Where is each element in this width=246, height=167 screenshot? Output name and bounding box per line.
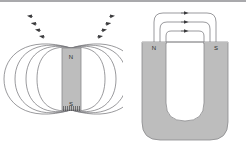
bar-magnet-panel: N S	[0, 0, 123, 167]
horseshoe-arrowheads-group	[181, 13, 186, 31]
field-lines-left-group	[4, 44, 71, 114]
field-arrowheads-group	[30, 16, 113, 37]
arrowhead-right-3	[105, 24, 109, 25]
horseshoe-magnet-panel: N S	[123, 0, 246, 167]
arrowhead-left-2	[38, 30, 42, 31]
bar-magnet-svg: N S	[0, 0, 123, 167]
bar-magnet-south-label: S	[69, 101, 73, 107]
horseshoe-right-arm-top-cap	[204, 42, 228, 43]
horseshoe-south-label: S	[214, 45, 218, 51]
horseshoe-magnet-svg: N S	[123, 0, 246, 167]
arrowhead-left-3	[34, 24, 38, 25]
field-loop-left-4	[4, 44, 71, 114]
arrowhead-left-1	[42, 36, 46, 37]
arrowhead-right-1	[97, 36, 101, 37]
horseshoe-magnet-body	[142, 42, 228, 140]
magnetic-field-figure: N S	[0, 0, 246, 167]
horseshoe-north-label: N	[152, 45, 156, 51]
bar-magnet-north-label: N	[69, 54, 73, 60]
horseshoe-field-arcs-group	[154, 13, 216, 44]
arrowhead-right-2	[101, 30, 105, 31]
field-arc-1	[154, 13, 216, 44]
horseshoe-left-arm-top-cap	[142, 42, 166, 43]
field-arc-2	[160, 22, 210, 44]
